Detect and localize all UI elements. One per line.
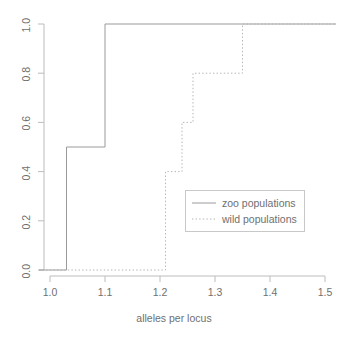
legend-label-wild-populations: wild populations — [222, 214, 297, 225]
ecdf-chart: 0.0 0.2 0.4 0.6 0.8 1.0 1.0 1.1 1.2 1.3 … — [0, 0, 348, 338]
x-tick-label-0: 1.0 — [38, 287, 62, 298]
y-tick-label-3: 0.6 — [21, 112, 32, 136]
y-tick-label-5: 1.0 — [21, 13, 32, 37]
series-line-zoo-populations — [39, 24, 336, 270]
y-tick-marks — [38, 24, 44, 270]
legend-label-zoo-populations: zoo populations — [222, 198, 296, 209]
x-tick-label-3: 1.3 — [203, 287, 227, 298]
x-tick-label-4: 1.4 — [258, 287, 282, 298]
y-tick-label-4: 0.8 — [21, 62, 32, 86]
x-axis-title: alleles per locus — [0, 313, 348, 324]
x-tick-marks — [50, 276, 325, 282]
y-tick-label-1: 0.2 — [21, 210, 32, 234]
y-tick-label-0: 0.0 — [21, 259, 32, 283]
x-tick-label-5: 1.5 — [313, 287, 337, 298]
y-tick-label-2: 0.4 — [21, 161, 32, 185]
x-tick-label-2: 1.2 — [148, 287, 172, 298]
x-tick-label-1: 1.1 — [93, 287, 117, 298]
